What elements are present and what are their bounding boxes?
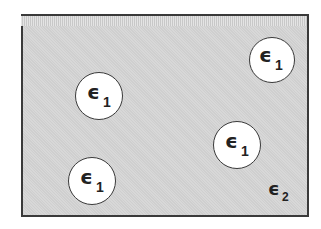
epsilon-1-label: ϵ 1 — [79, 76, 119, 116]
inclusion-circle-2: ϵ 1 — [249, 37, 295, 83]
inclusion-circle-3: ϵ 1 — [213, 121, 261, 169]
epsilon-2-label: ϵ 2 — [268, 178, 308, 218]
inclusion-circle-4: ϵ 1 — [68, 157, 116, 205]
inclusion-circle-1: ϵ 1 — [75, 72, 123, 120]
top-texture-band — [21, 16, 307, 26]
epsilon-1-label: ϵ 1 — [252, 40, 292, 80]
epsilon-1-label: ϵ 1 — [72, 161, 112, 201]
epsilon-1-label: ϵ 1 — [217, 125, 257, 165]
